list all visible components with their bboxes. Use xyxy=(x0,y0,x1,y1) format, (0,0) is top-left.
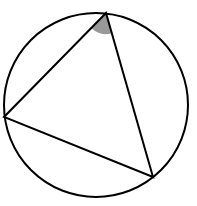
diagram-canvas xyxy=(0,0,197,206)
inscribed-triangle xyxy=(4,13,153,177)
inscribed-triangle-figure xyxy=(0,0,197,206)
circumscribed-circle xyxy=(4,13,188,197)
